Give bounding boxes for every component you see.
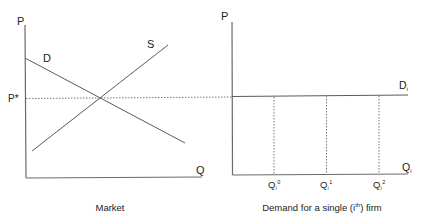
firm-title: Demand for a single (ith) firm — [262, 202, 382, 213]
firm-title-prefix: Demand for a single (i — [262, 202, 355, 213]
market-title: Market — [95, 202, 124, 213]
quantity-1-sub: i — [327, 185, 328, 191]
market-y-axis-label: P — [17, 15, 24, 27]
quantity-0-label: Qi0 — [268, 179, 280, 191]
quantity-2-sub: i — [380, 185, 381, 191]
firm-y-axis-label: P — [221, 10, 228, 22]
firm-x-axis — [233, 174, 409, 175]
firm-x-axis-label: Qi — [402, 161, 412, 174]
quantity-0-sup: 0 — [277, 179, 280, 185]
firm-title-suffix: ) firm — [360, 202, 382, 213]
market-demand-curve — [25, 58, 185, 143]
quantity-1-sup: 1 — [329, 179, 332, 185]
quantity-2-label: Qi2 — [373, 179, 385, 191]
firm-demand-label: Di — [399, 79, 408, 92]
demand-curve-label: D — [43, 52, 51, 64]
market-panel: P Q D S P* Market — [8, 15, 232, 213]
diagram-canvas: P Q D S P* Market P Qi Di Qi0 Qi1 Qi2 De… — [0, 0, 423, 222]
quantity-1-base: Q — [320, 179, 327, 190]
firm-panel: P Qi Di Qi0 Qi1 Qi2 Demand for a single … — [221, 10, 412, 213]
quantity-1-label: Qi1 — [320, 179, 332, 191]
equilibrium-price-label: P* — [8, 93, 19, 104]
quantity-0-base: Q — [268, 179, 275, 190]
quantity-0-sub: i — [275, 185, 276, 191]
supply-curve-label: S — [147, 38, 154, 50]
firm-demand-curve — [232, 95, 408, 97]
market-y-axis — [25, 25, 26, 178]
market-supply-curve — [32, 45, 168, 151]
quantity-2-base: Q — [373, 179, 380, 190]
quantity-2-sup: 2 — [382, 179, 385, 185]
market-x-axis-label: Q — [196, 164, 205, 176]
firm-x-axis-label-sub: i — [410, 168, 411, 174]
firm-y-axis — [232, 22, 233, 175]
firm-demand-label-sub: i — [407, 86, 408, 92]
market-x-axis — [26, 177, 202, 178]
firm-x-axis-label-base: Q — [402, 161, 410, 173]
equilibrium-price-dotted-line — [26, 97, 232, 99]
